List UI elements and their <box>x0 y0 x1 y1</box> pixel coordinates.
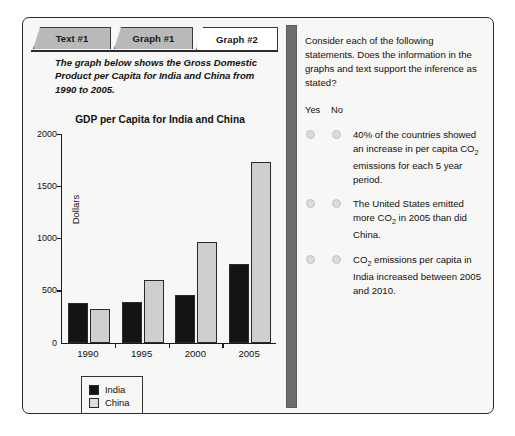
legend-item-india: India <box>89 384 130 395</box>
answer-column-headers: Yes No <box>305 104 485 117</box>
legend-item-china: China <box>89 397 130 408</box>
statement-3: CO2 emissions per capita in India increa… <box>305 253 485 298</box>
y-axis-line <box>61 134 62 344</box>
tab-strip: Text #1 Graph #1 Graph #2 <box>33 27 278 51</box>
y-tick-label: 1500 <box>37 181 57 191</box>
legend-swatch-icon <box>89 385 99 395</box>
chart-legend: India China <box>81 376 143 414</box>
statement-2-text: The United States emitted more CO2 in 20… <box>353 197 485 242</box>
tab-graph-2[interactable]: Graph #2 <box>196 27 278 50</box>
y-tick-label: 2000 <box>37 129 57 139</box>
x-tick-label: 1995 <box>131 348 152 359</box>
tab-label: Graph #2 <box>216 34 258 45</box>
yes-column-header: Yes <box>305 104 320 115</box>
tab-label: Text #1 <box>56 33 89 44</box>
exam-window: Text #1 Graph #1 Graph #2 The graph belo… <box>22 17 494 414</box>
question-pane: Consider each of the following statement… <box>305 34 485 298</box>
bar-china-1990 <box>90 309 110 342</box>
y-tick-mark <box>57 238 61 239</box>
statement-1-text: 40% of the countries showed an increase … <box>353 128 485 186</box>
statement-3-text: CO2 emissions per capita in India increa… <box>353 253 485 298</box>
statement-2-yes-radio[interactable] <box>306 199 315 208</box>
legend-swatch-icon <box>89 398 99 408</box>
tab-text-1[interactable]: Text #1 <box>33 27 111 49</box>
y-axis-title: Dollars <box>70 170 81 250</box>
y-tick-mark <box>57 290 61 291</box>
statement-1: 40% of the countries showed an increase … <box>305 128 485 186</box>
no-column-header: No <box>331 104 343 115</box>
x-tick-label: 2000 <box>185 348 206 359</box>
x-tick-mark <box>169 344 170 348</box>
bar-india-2005 <box>229 264 249 343</box>
y-tick-label: 500 <box>42 285 57 295</box>
x-tick-label: 2005 <box>238 348 259 359</box>
legend-label: India <box>105 384 125 395</box>
bar-china-2005 <box>251 162 271 342</box>
bar-china-2000 <box>197 242 217 342</box>
bar-india-1995 <box>122 302 142 342</box>
question-prompt: Consider each of the following statement… <box>305 34 483 90</box>
y-tick-mark <box>57 134 61 135</box>
tab-graph-1[interactable]: Graph #1 <box>114 27 193 49</box>
statement-3-yes-radio[interactable] <box>306 255 315 264</box>
bar-india-2000 <box>175 295 195 342</box>
statements-list: 40% of the countries showed an increase … <box>305 128 485 298</box>
statement-1-yes-radio[interactable] <box>306 130 315 139</box>
tab-underline-divider <box>31 50 278 52</box>
legend-label: China <box>105 397 130 408</box>
bar-chart-plot: Dollars 0500100015002000 199019952000200… <box>61 134 276 344</box>
pane-divider-bar[interactable] <box>286 25 297 408</box>
chart-title: GDP per Capita for India and China <box>45 114 275 125</box>
x-tick-mark <box>115 344 116 348</box>
y-tick-label: 1000 <box>37 233 57 243</box>
graph-pane: Text #1 Graph #1 Graph #2 The graph belo… <box>23 18 278 413</box>
statement-2-no-radio[interactable] <box>332 199 341 208</box>
x-tick-label: 1990 <box>77 348 98 359</box>
bar-india-1990 <box>68 303 88 343</box>
graph-intro-text: The graph below shows the Gross Domestic… <box>55 56 277 96</box>
x-tick-mark <box>222 344 223 348</box>
y-tick-mark <box>57 186 61 187</box>
statement-2: The United States emitted more CO2 in 20… <box>305 197 485 242</box>
statement-3-no-radio[interactable] <box>332 255 341 264</box>
bar-china-1995 <box>144 280 164 343</box>
statement-1-no-radio[interactable] <box>332 130 341 139</box>
tab-label: Graph #1 <box>133 33 175 44</box>
y-tick-label: 0 <box>52 338 57 348</box>
